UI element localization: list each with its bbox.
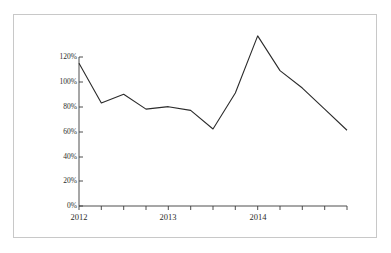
data-series-line	[79, 36, 347, 130]
y-tick-label-100: 100%	[48, 77, 77, 86]
y-tick-label-120: 120%	[48, 52, 77, 61]
x-tick-label-2012: 2012	[59, 212, 99, 222]
y-tick-label-80: 80%	[52, 102, 77, 111]
chart-screenshot: 0% 20% 40% 60% 80% 100% 120% 2012 2013 2…	[0, 0, 391, 253]
y-tick-label-20: 20%	[52, 176, 77, 185]
x-tick-label-2013: 2013	[148, 212, 188, 222]
y-tick-label-0: 0%	[52, 201, 77, 210]
y-tick-label-60: 60%	[52, 127, 77, 136]
x-tick-label-2014: 2014	[238, 212, 278, 222]
x-axis-ticks	[79, 206, 347, 210]
y-axis-ticks	[79, 57, 83, 206]
y-tick-label-40: 40%	[52, 152, 77, 161]
